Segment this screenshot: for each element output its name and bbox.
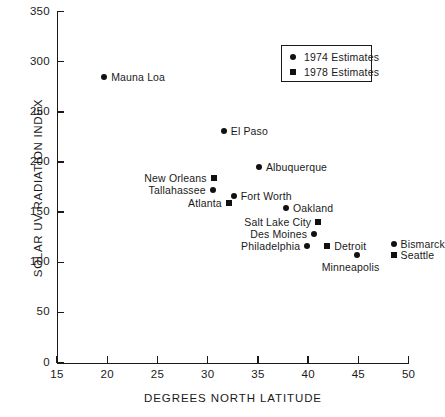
data-point-atlanta bbox=[226, 200, 232, 206]
data-point-oakland bbox=[283, 205, 289, 211]
y-tick bbox=[57, 211, 64, 212]
x-tick bbox=[207, 356, 208, 363]
x-tick bbox=[157, 356, 158, 363]
legend-item-1974: 1974 Estimates bbox=[290, 50, 379, 64]
y-tick bbox=[57, 61, 64, 62]
x-tick-label: 30 bbox=[188, 368, 228, 380]
data-point-label: Des Moines bbox=[0, 228, 307, 240]
chart-legend: 1974 Estimates 1978 Estimates bbox=[281, 45, 372, 82]
data-point-bismarck bbox=[391, 241, 397, 247]
y-tick bbox=[57, 11, 64, 12]
data-point-label: Atlanta bbox=[0, 197, 222, 209]
data-point-detroit bbox=[324, 243, 330, 249]
data-point-new-orleans bbox=[211, 175, 217, 181]
x-tick-label: 25 bbox=[137, 368, 177, 380]
y-tick-label: 0 bbox=[6, 356, 50, 368]
y-tick-label: 50 bbox=[6, 305, 50, 317]
x-axis-title: DEGREES NORTH LATITUDE bbox=[57, 392, 409, 404]
x-tick-label: 45 bbox=[338, 368, 378, 380]
circle-marker-icon bbox=[290, 54, 296, 60]
data-point-tallahassee bbox=[210, 187, 216, 193]
data-point-el-paso bbox=[221, 128, 227, 134]
x-tick bbox=[107, 356, 108, 363]
data-point-label: Salt Lake City bbox=[0, 216, 311, 228]
data-point-label: Oakland bbox=[293, 202, 333, 214]
x-tick-label: 50 bbox=[389, 368, 429, 380]
y-tick bbox=[57, 111, 64, 112]
data-point-label: Minneapolis bbox=[0, 261, 379, 273]
data-point-label: New Orleans bbox=[0, 172, 207, 184]
x-tick bbox=[307, 356, 308, 363]
y-tick bbox=[57, 161, 64, 162]
y-tick-label: 300 bbox=[6, 55, 50, 67]
data-point-fort-worth bbox=[231, 193, 237, 199]
data-point-label: Mauna Loa bbox=[111, 71, 165, 83]
data-point-albuquerque bbox=[256, 164, 262, 170]
data-point-label: Philadelphia bbox=[0, 240, 300, 252]
x-tick bbox=[408, 356, 409, 363]
x-tick bbox=[56, 356, 57, 363]
data-point-label: Tallahassee bbox=[0, 184, 206, 196]
data-point-seattle bbox=[391, 252, 397, 258]
y-tick-label: 350 bbox=[6, 5, 50, 17]
y-tick bbox=[57, 362, 64, 363]
x-axis-line bbox=[57, 363, 409, 364]
data-point-label: Seattle bbox=[401, 249, 435, 261]
square-marker-icon bbox=[290, 69, 296, 75]
legend-item-1978: 1978 Estimates bbox=[290, 65, 379, 79]
data-point-label: Albuquerque bbox=[266, 161, 327, 173]
data-point-mauna-loa bbox=[101, 74, 107, 80]
data-point-label: El Paso bbox=[231, 125, 268, 137]
y-tick bbox=[57, 312, 64, 313]
legend-label: 1974 Estimates bbox=[304, 51, 379, 63]
data-point-des-moines bbox=[311, 231, 317, 237]
x-tick-label: 40 bbox=[288, 368, 328, 380]
x-tick-label: 35 bbox=[238, 368, 278, 380]
data-point-salt-lake-city bbox=[315, 219, 321, 225]
x-tick bbox=[257, 356, 258, 363]
data-point-label: Fort Worth bbox=[241, 190, 292, 202]
data-point-philadelphia bbox=[304, 243, 310, 249]
data-point-minneapolis bbox=[354, 252, 360, 258]
x-tick-label: 15 bbox=[37, 368, 77, 380]
data-point-label: Detroit bbox=[334, 240, 366, 252]
x-tick-label: 20 bbox=[87, 368, 127, 380]
legend-label: 1978 Estimates bbox=[304, 66, 379, 78]
x-tick bbox=[358, 356, 359, 363]
